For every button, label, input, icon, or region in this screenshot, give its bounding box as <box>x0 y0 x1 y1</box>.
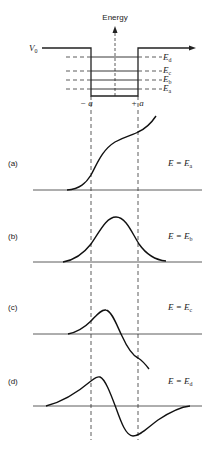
wavefunction-b <box>63 217 166 262</box>
panel-c-equation: E = Ec <box>167 302 193 313</box>
panel-b: (b) E = Eb <box>8 217 202 262</box>
wavefunction-a <box>67 116 156 190</box>
level-c: Ec <box>66 65 172 76</box>
wavefunction-c <box>68 310 149 369</box>
panel-a-tag: (a) <box>8 159 18 168</box>
level-d: Ed <box>66 52 172 63</box>
x-axis-arrowhead <box>189 46 196 51</box>
v0-label: V0 <box>29 43 38 54</box>
panel-c-tag: (c) <box>8 303 18 312</box>
panel-d: (d) E = Ed <box>8 376 202 436</box>
energy-axis-label: Energy <box>102 13 127 22</box>
minus-a-label: − a <box>80 98 93 108</box>
panel-b-tag: (b) <box>8 232 18 241</box>
plus-a-label: + a <box>131 98 144 108</box>
square-well-diagram: Energy V0 Ed Ec Eb Ea − a + a (a) E = Ea <box>0 0 210 456</box>
panel-b-equation: E = Eb <box>167 231 193 242</box>
panel-a: (a) E = Ea <box>8 116 202 190</box>
panel-c: (c) E = Ec <box>8 302 202 369</box>
panel-a-equation: E = Ea <box>167 158 193 169</box>
panel-d-equation: E = Ed <box>167 376 193 387</box>
panel-d-tag: (d) <box>8 377 18 386</box>
svg-text:Ed: Ed <box>162 52 172 63</box>
energy-axis-arrowhead <box>113 26 118 33</box>
level-a: Ea <box>66 83 172 94</box>
level-b: Eb <box>66 74 172 85</box>
